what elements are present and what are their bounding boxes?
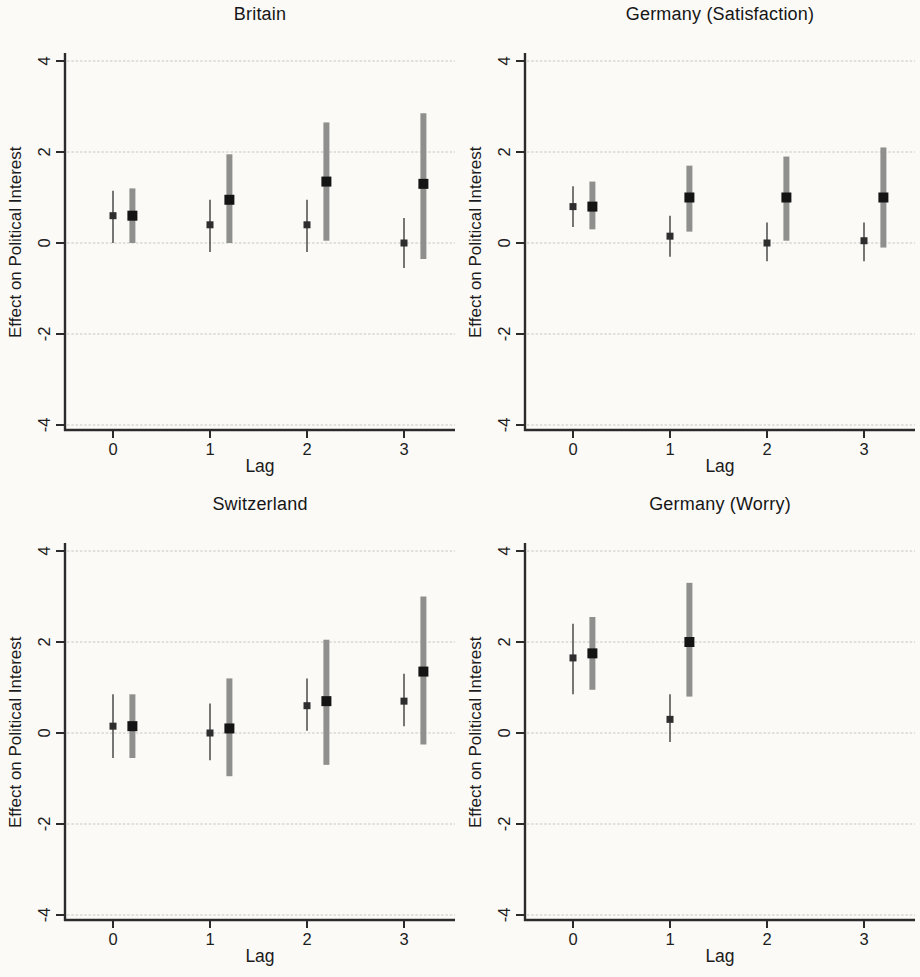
point-estimate <box>304 702 311 709</box>
y-tick-label: -2 <box>495 817 513 832</box>
point-estimate <box>684 193 694 203</box>
panel-germany-satisfaction: Germany (Satisfaction) Effect on Politic… <box>460 0 920 490</box>
panel-britain: Britain Effect on Political Interest 420… <box>0 0 460 490</box>
y-tick-label: 0 <box>495 238 513 247</box>
point-estimate <box>764 240 771 247</box>
point-estimate <box>587 648 597 658</box>
y-tick-label: -2 <box>495 327 513 342</box>
point-estimate <box>570 203 577 210</box>
point-estimate <box>418 179 428 189</box>
point-estimate <box>110 723 117 730</box>
point-estimate <box>878 193 888 203</box>
plot-britain: 420-2-40123 <box>0 0 460 490</box>
y-tick-label: 0 <box>35 238 53 247</box>
figure: Britain Effect on Political Interest 420… <box>0 0 920 977</box>
point-estimate <box>321 696 331 706</box>
point-estimate <box>401 698 408 705</box>
y-tick-label: 4 <box>495 56 513 65</box>
point-estimate <box>401 240 408 247</box>
point-estimate <box>304 221 311 228</box>
point-estimate <box>207 221 214 228</box>
y-tick-label: 2 <box>495 147 513 156</box>
x-axis-label: Lag <box>525 946 915 967</box>
point-estimate <box>127 721 137 731</box>
y-tick-label: -2 <box>35 817 53 832</box>
y-tick-label: 2 <box>495 637 513 646</box>
y-tick-label: 2 <box>35 637 53 646</box>
y-tick-label: 2 <box>35 147 53 156</box>
x-axis-label: Lag <box>65 946 455 967</box>
point-estimate <box>321 177 331 187</box>
plot-germany-worry: 420-2-40123 <box>460 490 920 977</box>
point-estimate <box>127 211 137 221</box>
point-estimate <box>684 637 694 647</box>
point-estimate <box>207 730 214 737</box>
point-estimate <box>110 212 117 219</box>
point-estimate <box>418 667 428 677</box>
x-axis-label: Lag <box>65 456 455 477</box>
y-tick-label: 4 <box>35 546 53 555</box>
y-tick-label: -4 <box>495 418 513 433</box>
panel-switzerland: Switzerland Effect on Political Interest… <box>0 490 460 977</box>
point-estimate <box>224 723 234 733</box>
point-estimate <box>781 193 791 203</box>
point-estimate <box>570 654 577 661</box>
y-tick-label: -4 <box>35 908 53 923</box>
y-tick-label: -4 <box>495 908 513 923</box>
plot-germany-satisfaction: 420-2-40123 <box>460 0 920 490</box>
x-axis-label: Lag <box>525 456 915 477</box>
point-estimate <box>667 233 674 240</box>
point-estimate <box>861 237 868 244</box>
point-estimate <box>587 202 597 212</box>
y-tick-label: -4 <box>35 418 53 433</box>
plot-switzerland: 420-2-40123 <box>0 490 460 977</box>
y-tick-label: 0 <box>495 728 513 737</box>
y-tick-label: -2 <box>35 327 53 342</box>
point-estimate <box>224 195 234 205</box>
y-tick-label: 0 <box>35 728 53 737</box>
panel-germany-worry: Germany (Worry) Effect on Political Inte… <box>460 490 920 977</box>
point-estimate <box>667 716 674 723</box>
y-tick-label: 4 <box>495 546 513 555</box>
y-tick-label: 4 <box>35 56 53 65</box>
